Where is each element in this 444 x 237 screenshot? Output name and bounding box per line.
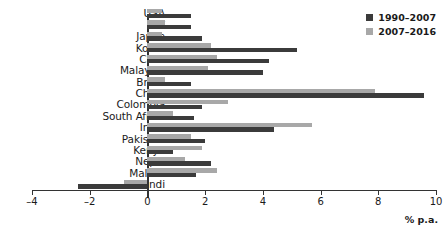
x-axis-tick	[205, 190, 206, 195]
bar-group	[32, 179, 436, 190]
bar-group	[32, 133, 436, 144]
bar	[147, 127, 274, 131]
bar-group	[32, 42, 436, 53]
bar-group	[32, 122, 436, 133]
bar-group	[32, 54, 436, 65]
bar	[147, 55, 216, 59]
legend-item: 2007–2016	[366, 26, 436, 37]
x-axis-tick-label: 10	[430, 196, 443, 207]
bar-group	[32, 156, 436, 167]
bar	[147, 32, 161, 36]
bar	[147, 59, 268, 63]
bar	[147, 25, 190, 29]
legend-label: 2007–2016	[378, 26, 436, 37]
x-axis-tick	[378, 190, 379, 195]
x-axis-tick	[321, 190, 322, 195]
bar-group	[32, 76, 436, 87]
bar	[78, 184, 147, 188]
bar	[147, 89, 375, 93]
bar-group	[32, 65, 436, 76]
bar	[147, 150, 173, 154]
bar-group	[32, 167, 436, 178]
x-axis-tick-label: –4	[26, 196, 37, 207]
legend-item: 1990–2007	[366, 12, 436, 23]
x-axis-line	[32, 190, 436, 191]
bar-group	[32, 99, 436, 110]
x-axis-tick	[436, 190, 437, 195]
bar	[147, 134, 190, 138]
horizontal-bar-chart: USAUKJapanKoreaChileMalaysiaBrazilChinaC…	[0, 0, 444, 237]
x-axis-tick-label: 2	[202, 196, 208, 207]
x-axis-tick-label: 4	[260, 196, 266, 207]
bar	[147, 77, 164, 81]
legend-swatch-icon	[366, 14, 373, 21]
x-axis-tick	[32, 190, 33, 195]
bar-group	[32, 145, 436, 156]
legend-swatch-icon	[366, 28, 373, 35]
bar-group	[32, 88, 436, 99]
legend-label: 1990–2007	[378, 12, 436, 23]
bar	[147, 146, 202, 150]
bar	[147, 14, 190, 18]
bar	[147, 9, 161, 13]
bar	[147, 82, 190, 86]
bar	[147, 70, 262, 74]
bar	[124, 180, 147, 184]
bar	[147, 48, 297, 52]
x-axis-tick	[263, 190, 264, 195]
x-axis-tick-label: 8	[375, 196, 381, 207]
bar	[147, 139, 205, 143]
bar	[147, 173, 196, 177]
bar	[147, 123, 311, 127]
bar	[147, 105, 202, 109]
bar-group	[32, 110, 436, 121]
bar	[147, 161, 210, 165]
x-axis-tick-label: 0	[144, 196, 150, 207]
chart-legend: 1990–20072007–2016	[366, 12, 436, 37]
bar	[147, 111, 173, 115]
bar	[147, 116, 193, 120]
bar	[147, 168, 216, 172]
bar	[147, 157, 185, 161]
bar	[147, 66, 208, 70]
bar	[147, 43, 210, 47]
x-axis-unit-label: % p.a.	[405, 214, 438, 225]
bar	[147, 100, 228, 104]
bar	[147, 20, 164, 24]
x-axis-tick-label: 6	[317, 196, 323, 207]
x-axis-tick-label: –2	[84, 196, 95, 207]
x-axis-tick	[90, 190, 91, 195]
bar	[147, 36, 202, 40]
bar	[147, 93, 424, 97]
x-axis-tick	[147, 190, 148, 195]
